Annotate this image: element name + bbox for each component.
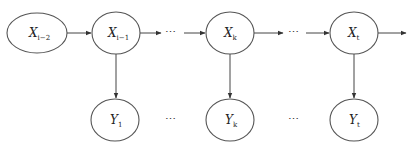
node-y-t: Yt xyxy=(330,99,378,141)
node-x-i-minus-2: Xi−2 xyxy=(7,13,67,53)
emission-edges xyxy=(116,54,354,98)
node-y-k: Yk xyxy=(206,99,254,141)
node-x-i-minus-1: Xi−1 xyxy=(92,12,140,54)
hmm-diagram: Xi−2 Xi−1 Xk Xt Y1 Yk Yt ⋯ ⋯ ⋯ ⋯ xyxy=(0,0,410,148)
node-x-k: Xk xyxy=(206,12,254,54)
ellipsis-top-1: ⋯ xyxy=(165,26,176,39)
node-x-t: Xt xyxy=(330,12,378,54)
ellipsis-bottom-2: ⋯ xyxy=(288,113,299,126)
ellipsis-top-2: ⋯ xyxy=(288,26,299,39)
node-y-1: Y1 xyxy=(91,99,139,141)
ellipsis-bottom-1: ⋯ xyxy=(165,113,176,126)
